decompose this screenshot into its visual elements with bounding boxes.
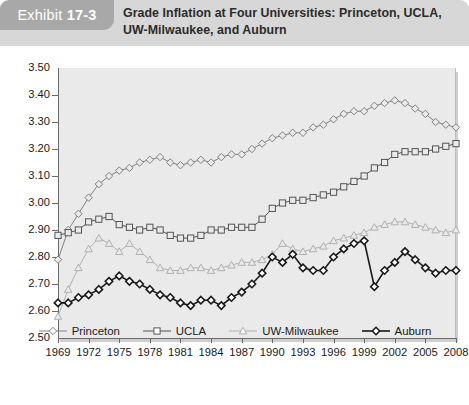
data-point-marker (432, 146, 438, 152)
data-point-marker (147, 224, 153, 230)
data-point-marker (452, 226, 459, 233)
data-point-marker (259, 216, 265, 222)
data-point-marker (188, 235, 194, 241)
data-point-marker (85, 194, 92, 201)
data-point-marker (126, 240, 133, 247)
data-point-marker (116, 248, 123, 255)
page-title: Grade Inflation at Four Universities: Pr… (123, 5, 455, 38)
data-point-marker (442, 267, 449, 274)
data-point-marker (167, 159, 174, 166)
data-point-marker (341, 184, 347, 190)
data-point-marker (340, 110, 347, 117)
data-point-marker (156, 264, 163, 271)
data-point-marker (239, 224, 245, 230)
data-point-marker (290, 197, 296, 203)
data-point-marker (167, 232, 173, 238)
data-point-marker (330, 116, 337, 123)
data-point-marker (310, 195, 316, 201)
data-point-marker (106, 213, 112, 219)
data-point-marker (136, 248, 143, 255)
y-axis-tick-label: 3.00 (6, 196, 50, 208)
data-point-marker (371, 102, 378, 109)
data-point-marker (187, 302, 194, 309)
data-point-marker (218, 227, 224, 233)
data-point-marker (258, 256, 265, 263)
data-point-marker (452, 267, 459, 274)
exhibit-card: Exhibit 17-3 Grade Inflation at Four Uni… (0, 0, 469, 405)
data-point-marker (157, 227, 163, 233)
data-point-marker (156, 153, 163, 160)
series-line (58, 222, 456, 317)
chart-area: 3.503.403.303.203.103.002.902.802.702.60… (0, 46, 469, 405)
exhibit-header: Exhibit 17-3 Grade Inflation at Four Uni… (0, 0, 469, 46)
data-point-marker (177, 162, 184, 169)
data-point-marker (391, 97, 398, 104)
data-point-marker (177, 235, 183, 241)
data-point-marker (381, 99, 388, 106)
data-point-marker (208, 227, 214, 233)
data-point-marker (177, 299, 184, 306)
data-point-marker (65, 299, 72, 306)
data-point-marker (85, 291, 92, 298)
exhibit-badge-word: Exhibit (18, 7, 63, 23)
data-point-marker (300, 197, 306, 203)
data-point-marker (75, 264, 82, 271)
data-point-marker (75, 210, 82, 217)
data-point-marker (75, 294, 82, 301)
data-point-marker (248, 145, 255, 152)
data-point-marker (156, 291, 163, 298)
data-point-marker (371, 283, 378, 290)
series-line (58, 100, 456, 259)
data-point-marker (126, 164, 133, 171)
data-point-marker (75, 227, 81, 233)
data-point-marker (432, 270, 439, 277)
data-point-marker (309, 267, 316, 274)
data-point-marker (207, 159, 214, 166)
data-point-marker (320, 121, 327, 128)
data-point-marker (197, 156, 204, 163)
data-point-marker (136, 159, 143, 166)
series-uw-milwaukee (54, 218, 459, 319)
data-point-marker (412, 149, 418, 155)
data-point-marker (137, 227, 143, 233)
series-ucla (55, 141, 459, 242)
data-point-marker (126, 224, 132, 230)
data-point-marker (65, 230, 71, 236)
data-point-marker (96, 216, 102, 222)
data-point-marker (116, 222, 122, 228)
data-point-marker (350, 240, 357, 247)
data-point-marker (49, 327, 56, 334)
data-point-marker (269, 205, 275, 211)
y-axis-tick-label: 3.10 (6, 169, 50, 181)
data-point-marker (411, 105, 418, 112)
data-point-marker (116, 167, 123, 174)
data-point-marker (361, 173, 367, 179)
plot-series-layer (58, 68, 456, 338)
data-point-marker (422, 149, 428, 155)
data-point-marker (299, 129, 306, 136)
data-point-marker (401, 99, 408, 106)
data-point-marker (146, 156, 153, 163)
data-point-marker (136, 280, 143, 287)
data-point-marker (207, 297, 214, 304)
data-point-marker (360, 237, 367, 244)
data-point-marker (146, 256, 153, 263)
data-point-marker (442, 121, 449, 128)
data-point-marker (279, 132, 286, 139)
data-point-marker (146, 286, 153, 293)
data-point-marker (228, 151, 235, 158)
data-point-marker (54, 299, 61, 306)
y-axis-tick-label: 3.20 (6, 142, 50, 154)
data-point-marker (126, 278, 133, 285)
data-point-marker (197, 297, 204, 304)
data-point-marker (65, 286, 72, 293)
exhibit-badge-number: 17-3 (67, 7, 97, 23)
x-axis-tick-label: 2008 (436, 346, 469, 358)
data-point-marker (360, 229, 367, 236)
y-axis-tick-label: 2.60 (6, 304, 50, 316)
y-axis-tick-label: 3.40 (6, 88, 50, 100)
data-point-marker (381, 159, 387, 165)
data-point-marker (320, 192, 326, 198)
data-point-marker (54, 313, 61, 320)
data-point-marker (95, 234, 102, 241)
